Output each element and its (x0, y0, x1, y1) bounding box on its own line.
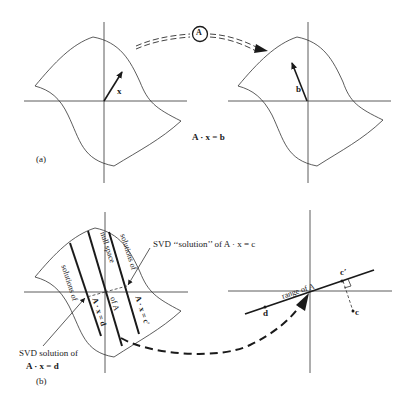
svd-d-pointer (43, 298, 85, 346)
panel-a-right-range-surface (238, 37, 383, 166)
c-projection-dashed (343, 281, 353, 311)
svd-solution-d-label-line1: SVD solution of (19, 349, 78, 358)
panel-b-label: (b) (36, 377, 47, 386)
svd-d-perpendicular (87, 292, 105, 297)
svd-c-perpendicular (105, 286, 127, 292)
panel-a-label: (a) (36, 155, 46, 164)
panel-a-domain (24, 22, 187, 183)
map-A-arrow-top (136, 27, 268, 54)
svd-solution-c-label: SVD ‘‘solution’’ of A · x = c (153, 240, 255, 249)
panel-a-range (228, 22, 391, 183)
vector-b-arrow (292, 63, 307, 101)
point-d-label: d (263, 309, 268, 318)
point-c-prime-label: c′ (340, 268, 347, 277)
point-c-label: c (355, 308, 359, 317)
panel-a-left-domain-surface (35, 37, 181, 166)
svd-diagram-canvas (0, 0, 409, 405)
operator-A-label: A (196, 29, 202, 37)
vector-x-label: x (117, 87, 122, 96)
vector-b-label: b (296, 85, 301, 94)
svd-solution-d-label-line2: A · x = d (26, 362, 59, 371)
panel-a-equation: A · x = b (192, 133, 225, 142)
